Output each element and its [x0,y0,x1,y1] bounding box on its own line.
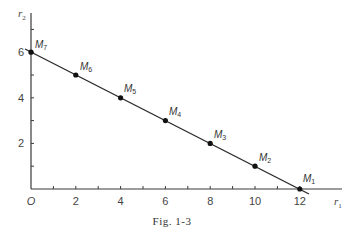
point-m6 [73,72,78,77]
point-m3 [208,141,213,146]
figure-1-3: O 2 4 6 8 10 12 2 4 6 r1 r2 M1 M2 M3 M4 … [0,0,363,233]
x-tick-label-4: 4 [118,195,124,207]
figure-caption: Fig. 1-3 [153,215,192,227]
x-tick-label-6: 6 [162,195,168,207]
label-m1: M1 [303,173,315,185]
label-m3: M3 [214,129,226,141]
y-tick-label-4: 4 [18,92,24,104]
point-m4 [163,118,168,123]
x-axis-label: r1 [334,195,342,210]
point-m7 [28,50,33,55]
x-tick-label-12: 12 [294,195,306,207]
x-tick-label-2: 2 [73,195,79,207]
label-m6: M6 [80,61,92,73]
point-m5 [118,95,123,100]
point-m1 [297,186,302,191]
y-axis-label: r2 [18,7,26,22]
label-m5: M5 [124,83,136,95]
label-m2: M2 [259,152,271,164]
x-tick-label-8: 8 [207,195,213,207]
x-tick-label-10: 10 [249,195,261,207]
label-m7: M7 [35,39,47,51]
y-tick-label-6: 6 [18,46,24,58]
origin-label: O [27,195,36,207]
label-m4: M4 [169,106,181,118]
point-m2 [252,164,257,169]
y-tick-label-2: 2 [18,137,24,149]
